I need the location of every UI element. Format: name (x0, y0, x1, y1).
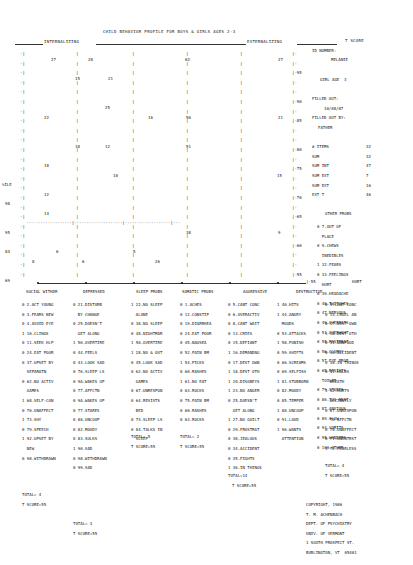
percentile-84: 84 (5, 250, 10, 255)
plot-separator-3: | | | | | | | | | | | | | | | | | | | | … (186, 49, 188, 279)
total-aggressive: TOTAL=14 (228, 474, 247, 479)
page-title: CHILD BEHAVIOR PROFILE FOR BOYS & GIRLS … (103, 30, 235, 35)
item-column-destructive-b: 0 5.CANT CONC 0 14.CRUEL AN 0 17.DEST OW… (325, 300, 359, 454)
summary-row-1-label: SUM (312, 155, 319, 160)
summary-row-0-label: # ITEMS (312, 145, 329, 150)
plot-value: 27 (51, 58, 56, 63)
tscore-sleep-probs: T SCORE=55 (131, 445, 155, 450)
summary-row-3-label: SUM EXT (312, 174, 329, 179)
profile-point-somatic-probs (181, 282, 183, 284)
percentile-95: 95 (5, 231, 10, 236)
scale-label-social-withdr: SOCIAL WITHDR (26, 290, 57, 295)
internalizing-rule-right (96, 44, 246, 45)
profile-line-segment-4 (182, 283, 230, 284)
filled-out-by-value: FATHER (318, 126, 332, 131)
scale-label-sleep-probs: SLEEP PROBS (136, 290, 163, 295)
item-column-aggressive: 0 5.CANT CONC 0 6.OVERACTIV 0 8.CANT WAI… (228, 300, 262, 473)
item-column-destructive: 1 40.HITS 1 44.ANGRY MOODS 0 53.ATTACKS … (277, 300, 308, 444)
tscore-header: T SCORE (345, 39, 364, 44)
plot-value: 21 (108, 77, 113, 82)
internalizing-label: INTERNALIZING (44, 40, 79, 45)
axis-baseline-label: |-55 (306, 280, 316, 285)
externalizing-label: EXTERNALIZING (247, 40, 282, 45)
item-column-social-withdr: 0 2.ACT YOUNG 0 3.FEARS NEW 0 4.AVOID EY… (22, 300, 56, 463)
plot-value: 16 (148, 116, 153, 121)
profile-point-sleep-probs (133, 282, 135, 284)
profile-point-aggressive (229, 282, 231, 284)
profile-point-depressed (85, 282, 87, 284)
summary-row-5-value: 46 (366, 193, 371, 198)
total-social-withdr: TOTAL= 4 (22, 493, 41, 498)
plot-separator-4: | | | | | | | | | | | | | | | | | | | | … (240, 49, 242, 279)
percentile-98-gridline: -------------------|--------------------… (26, 221, 180, 226)
summary-row-2-label: SUM INT (312, 164, 329, 169)
total-sleep-probs: TOTAL= 5 (131, 435, 150, 440)
scale-label-aggressive: AGGRESSIVE (243, 290, 267, 295)
plot-value: 12 (44, 193, 49, 198)
profile-line-segment-1 (38, 283, 86, 284)
tscore-destructive: T SCORE=55 (325, 474, 349, 479)
tscore-aggressive: T SCORE=55 (232, 484, 256, 489)
plot-separator-2: | | | | | | | | | | | | | | | | | | | | … (132, 49, 134, 279)
summary-row-2-value: 47 (366, 164, 371, 169)
plot-value: 10 (113, 174, 118, 179)
percentile-69: 69 (5, 279, 10, 284)
plot-value: 26 (155, 260, 160, 265)
tscore-somatic-probs: T SCORE=55 (180, 445, 204, 450)
summary-row-5-label: EXT T (312, 193, 324, 198)
id-number-label: ID NUMBER: (312, 49, 336, 54)
profile-point-social-withdr (37, 282, 39, 284)
tscore-depressed: T SCORE=55 (73, 532, 97, 537)
demographics-value: GIRL AGE 3 (320, 78, 347, 83)
scale-label-somatic-probs: SOMATIC PROBS (182, 290, 213, 295)
tscore-tick-column: |- |- |-95 |- |- |-90 |- |-85 |- |- |-80… (292, 49, 302, 279)
scale-label-depressed: DEPRESSED (83, 290, 105, 295)
profile-sheet: CHILD BEHAVIOR PROFILE FOR BOYS & GIRLS … (0, 0, 413, 565)
axis-tick-column: -| -| -| -| -| -| -| -| -| -| -| -| -| -… (20, 49, 25, 279)
summary-row-4-value: 16 (366, 184, 371, 189)
filled-out-label: FILLED OUT: (312, 97, 339, 102)
id-number-value: MELANIE (331, 58, 348, 63)
summary-row-0-value: 32 (366, 145, 371, 150)
profile-line-segment-5 (230, 283, 278, 284)
plot-value: 6 (82, 260, 84, 265)
tscore-social-withdr: T SCORE=55 (22, 503, 46, 508)
profile-line-segment-3 (134, 283, 182, 284)
plot-value: 27 (278, 58, 283, 63)
summary-row-4-label: SUM EXT (312, 184, 329, 189)
plot-value: 6 (56, 250, 58, 255)
percentile-98: 98 (5, 202, 10, 207)
plot-value: 25 (105, 106, 110, 111)
item-column-somatic-probs: 0 1.ACHES 0 12.CONSTIP 0 19.DIARRHEA 0 2… (180, 300, 211, 425)
summary-row-3-value: 7 (366, 174, 368, 179)
plot-value: 9 (278, 231, 280, 236)
plot-value: 18 (44, 164, 49, 169)
profile-line-segment-2 (86, 283, 134, 284)
filled-out-value: 10/08/87 (324, 107, 343, 112)
scale-label-destructive: DESTRUCTIVE (296, 290, 323, 295)
externalizing-rule (297, 44, 337, 45)
plot-value: 28 (88, 58, 93, 63)
total-depressed: TOTAL= 3 (73, 522, 92, 527)
plot-value: 22 (44, 116, 49, 121)
profile-line-segment-6 (278, 283, 306, 284)
total-destructive: TOTAL= 4 (325, 464, 344, 469)
total-somatic-probs: TOTAL= 2 (180, 435, 199, 440)
plot-value: 15 (277, 174, 282, 179)
plot-separator-1: | | | | | | | | | | | | | | | | | | | | … (76, 49, 78, 279)
plot-value: 8 (32, 260, 34, 265)
profile-point-destructive (277, 282, 279, 284)
item-column-depressed: 0 21.DISTURB BY CHANGE 0 25.DOESN'T GET … (73, 300, 107, 473)
plot-value: 14 (44, 212, 49, 217)
other-probs-heading: OTHER PROBS (325, 212, 352, 217)
item-column-sleep-probs: 1 22.NO SLEEP ALONE 0 38.NO SLEEP 0 48.N… (131, 300, 162, 444)
copyright-block: COPYRIGHT, 1986 T. M. ACHENBACH DEPT. OF… (306, 500, 357, 558)
plot-value: 21 (278, 116, 283, 121)
filled-out-by-label: FILLED OUT BY: (312, 116, 346, 121)
internalizing-rule-left (15, 44, 43, 45)
hurt-label: HURT (352, 280, 362, 285)
plot-value: 12 (105, 145, 110, 150)
percentile-label: %ILE (2, 183, 12, 188)
summary-row-1-value: 32 (366, 155, 371, 160)
